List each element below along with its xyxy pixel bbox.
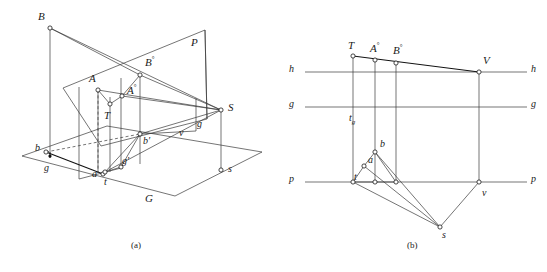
- label-axis-h-right: h: [531, 64, 536, 74]
- label-point-B-degree: B°: [145, 56, 155, 68]
- point-marker-g-left: [48, 154, 51, 157]
- label-point-t: t: [104, 177, 107, 187]
- line-T-V: [353, 56, 479, 72]
- label-point-T: T: [104, 110, 110, 121]
- panel-a-drawing: [0, 0, 285, 250]
- label-trace-t-g: tg: [349, 113, 355, 126]
- label-point-A: A: [89, 73, 96, 84]
- segment-s-to-v: [440, 182, 479, 227]
- label-point-g-prime: g′: [122, 156, 129, 166]
- point-marker-s: [219, 168, 223, 172]
- point-marker-Ao: [120, 94, 124, 98]
- ray-Bo-to-S: [140, 75, 221, 110]
- label-b-point-v: v: [482, 188, 486, 198]
- label-axis-p-right: p: [531, 174, 536, 184]
- point-marker-A: [96, 88, 100, 92]
- point-marker-b: [44, 150, 48, 154]
- panel-b-point-markers: [351, 54, 481, 229]
- point-marker-v: [477, 180, 481, 184]
- point-marker-B: [48, 26, 52, 30]
- point-marker-V: [477, 70, 481, 74]
- ground-plane-outline: [22, 126, 262, 196]
- label-ground-plane-G: G: [145, 193, 153, 204]
- label-axis-g-left: g: [289, 99, 294, 109]
- label-axis-p-left: p: [289, 174, 294, 184]
- label-b-point-t: t: [354, 172, 357, 182]
- picture-plane-right-edge: [205, 30, 207, 119]
- label-point-b-prime: b′: [143, 136, 150, 146]
- point-marker-bprime: [138, 132, 142, 136]
- label-point-B: B: [38, 11, 45, 22]
- point-marker-Bo: [138, 73, 142, 77]
- label-axis-h-left: h: [289, 64, 294, 74]
- label-b-point-A-degree: A°: [370, 42, 380, 54]
- caption-panel-a: (a): [131, 240, 141, 250]
- point-marker-Ao: [373, 58, 377, 62]
- label-point-g-left: g: [44, 163, 49, 173]
- point-marker-T: [108, 102, 112, 106]
- point-marker-T: [351, 54, 355, 58]
- ray-b-to-s: [375, 152, 440, 227]
- point-marker-a-trace: [373, 180, 377, 184]
- label-b-point-T: T: [348, 40, 354, 51]
- label-point-S: S: [228, 102, 234, 113]
- label-b-point-s: s: [442, 230, 446, 240]
- point-marker-a: [362, 164, 366, 168]
- label-b-point-B-degree: B°: [393, 44, 403, 56]
- ray-a-to-s: [364, 166, 440, 227]
- segment-B-to-Bo: [50, 28, 140, 75]
- label-b-point-V: V: [483, 55, 490, 66]
- segment-A-T: [98, 90, 110, 104]
- label-picture-plane-P: P: [191, 37, 198, 48]
- point-marker-S: [219, 108, 223, 112]
- label-point-b: b: [35, 143, 40, 153]
- label-b-point-b: b: [380, 139, 385, 149]
- point-marker-Bo: [394, 61, 398, 65]
- geometry-figure: B A A° B° T S b a b′ g′ g g t v s P G (a…: [0, 0, 547, 272]
- label-point-g-right: g: [197, 119, 202, 129]
- label-b-point-a: a: [368, 155, 373, 165]
- label-point-A-degree: A°: [127, 84, 137, 96]
- label-point-s: s: [228, 164, 232, 174]
- point-marker-t: [103, 170, 107, 174]
- point-marker-b-trace: [394, 180, 398, 184]
- ray-t-to-s: [353, 182, 440, 227]
- panel-b-drawing: [285, 0, 547, 250]
- label-point-a: a: [92, 169, 97, 179]
- panel-a-solid-markers: [48, 154, 51, 157]
- label-axis-g-right: g: [531, 99, 536, 109]
- label-point-v: v: [179, 128, 183, 138]
- point-marker-b: [373, 150, 377, 154]
- caption-panel-b: (b): [407, 240, 418, 250]
